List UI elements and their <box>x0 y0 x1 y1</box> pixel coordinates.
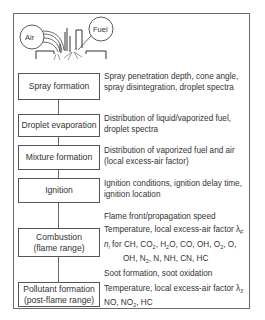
description-line: Temperature, local excess-air factor λ3 <box>104 283 246 297</box>
fuel-flow-line-icon <box>78 36 91 50</box>
description-line: spray disintegration, droplet spectra <box>104 83 246 94</box>
stage-box-droplet-evaporation: Droplet evaporation <box>18 114 100 137</box>
connector-line <box>58 257 59 282</box>
stage-box-ignition: Ignition <box>18 178 100 203</box>
air-flow-lines-icon <box>43 31 64 52</box>
description-line: ignition location <box>104 190 246 201</box>
fuel-label: Fuel <box>93 25 108 34</box>
description-line: Soot formation, soot oxidation <box>104 268 246 281</box>
stage-description-droplet-evaporation: Distribution of liquid/vaporized fuel, d… <box>104 114 246 135</box>
stage-label: Mixture formation <box>26 152 92 163</box>
lambda-subscript: F <box>240 229 243 235</box>
connector-line <box>58 100 59 114</box>
stage-label: Pollutant formation <box>23 284 95 295</box>
description-line-species: ni for CH, CO2, H2O, CO, OH, O2, O, <box>104 239 246 254</box>
description-line: (local excess-air factor) <box>104 157 246 168</box>
description-line: droplet spectra <box>104 125 246 136</box>
description-line-species: OH, N2, N, NH, CN, HC <box>104 253 246 268</box>
description-line: Flame front/propagation speed <box>104 212 246 223</box>
stage-pre-description-combustion: Flame front/propagation speed <box>104 212 246 223</box>
stage-description-spray-formation: Spray penetration depth, cone angle, spr… <box>104 72 246 93</box>
lambda-subscript: 3 <box>240 288 243 294</box>
injector-illustration: Air Fuel <box>14 14 124 64</box>
description-line: Ignition conditions, ignition delay time… <box>104 179 246 190</box>
description-line: Distribution of liquid/vaporized fuel, <box>104 114 246 125</box>
stage-description-combustion: Temperature, local excess-air factor λF … <box>104 224 246 280</box>
stage-label: Droplet evaporation <box>21 120 96 131</box>
stage-label: Combustion <box>36 232 82 243</box>
spray-icon <box>54 52 82 60</box>
connector-line <box>58 170 59 178</box>
description-line: Temperature, local excess-air factor λF <box>104 224 246 239</box>
stage-label: Spray formation <box>29 81 90 92</box>
stage-box-pollutant-formation: Pollutant formation (post-flame range) <box>18 282 100 307</box>
stage-box-spray-formation: Spray formation <box>18 73 100 100</box>
description-line: NO, NO2, HC <box>104 297 246 311</box>
stage-label: (flame range) <box>33 243 84 254</box>
stage-label: (post-flame range) <box>24 295 94 306</box>
connector-line <box>58 203 59 228</box>
description-line: Spray penetration depth, cone angle, <box>104 72 246 83</box>
description-line: Distribution of vaporized fuel and air <box>104 146 246 157</box>
stage-description-ignition: Ignition conditions, ignition delay time… <box>104 179 246 200</box>
air-label: Air <box>25 33 35 42</box>
stage-description-mixture-formation: Distribution of vaporized fuel and air (… <box>104 146 246 167</box>
stage-box-combustion: Combustion (flame range) <box>18 228 100 257</box>
stage-box-mixture-formation: Mixture formation <box>18 145 100 170</box>
stage-label: Ignition <box>45 185 73 196</box>
connector-line <box>58 137 59 145</box>
stage-description-pollutant-formation: Temperature, local excess-air factor λ3 … <box>104 283 246 311</box>
